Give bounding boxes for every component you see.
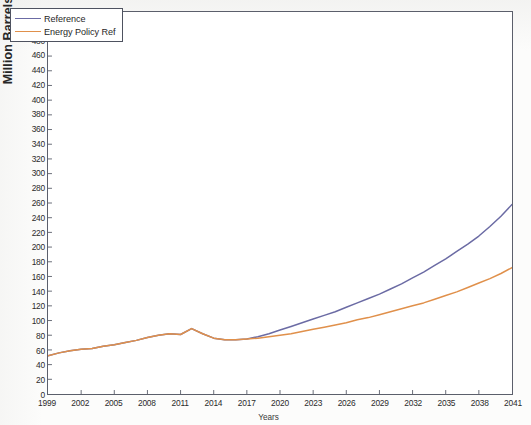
y-axis-tick-labels: 0204060801001201401601802002202402602803… [22, 0, 47, 425]
y-axis-tick-380: 380 [32, 109, 45, 119]
y-axis-tick-400: 400 [32, 95, 45, 105]
y-axis-tick-260: 260 [32, 198, 45, 208]
y-axis-tick-420: 420 [32, 80, 45, 90]
y-axis-tick-240: 240 [32, 213, 45, 223]
x-axis-tick-labels: 1999200220052008201120142017202020232026… [0, 398, 531, 412]
y-axis-tick-280: 280 [32, 183, 45, 193]
y-axis-tick-100: 100 [32, 316, 45, 326]
x-axis-tick-2002: 2002 [71, 398, 89, 408]
x-axis-tick-2017: 2017 [238, 398, 256, 408]
y-axis-tick-160: 160 [32, 272, 45, 282]
y-axis-tick-200: 200 [32, 242, 45, 252]
x-axis-tick-2038: 2038 [471, 398, 489, 408]
chart-page: Million Barrels of Oil Equivalents 02040… [0, 0, 531, 425]
series-line-energy-policy-ref [48, 268, 512, 356]
chart-legend: Reference Energy Policy Ref [10, 8, 123, 42]
y-axis-tick-440: 440 [32, 65, 45, 75]
x-axis-tick-2032: 2032 [404, 398, 422, 408]
legend-item-energy-policy-ref: Energy Policy Ref [15, 25, 115, 38]
x-axis-title-text: Years [258, 413, 279, 422]
y-axis-tick-340: 340 [32, 139, 45, 149]
x-axis-tick-2005: 2005 [105, 398, 123, 408]
y-axis-title-container: Million Barrels of Oil Equivalents [2, 0, 24, 425]
y-axis-tick-300: 300 [32, 168, 45, 178]
legend-swatch-energy-policy-ref [15, 31, 41, 32]
y-axis-tick-140: 140 [32, 287, 45, 297]
y-axis-tick-460: 460 [32, 50, 45, 60]
x-axis-tick-1999: 1999 [38, 398, 56, 408]
y-axis-tick-180: 180 [32, 257, 45, 267]
x-axis-tick-2035: 2035 [438, 398, 456, 408]
x-axis-tick-2014: 2014 [205, 398, 223, 408]
x-axis-tick-2011: 2011 [172, 398, 189, 408]
x-axis-tick-2023: 2023 [304, 398, 322, 408]
x-axis-tick-2020: 2020 [271, 398, 289, 408]
plot-area [47, 11, 513, 395]
y-axis-tick-360: 360 [32, 124, 45, 134]
y-axis-tick-60: 60 [36, 346, 45, 356]
y-axis-tick-40: 40 [36, 360, 45, 370]
y-axis-tick-20: 20 [36, 375, 45, 385]
x-axis-tick-2029: 2029 [371, 398, 389, 408]
legend-label-energy-policy-ref: Energy Policy Ref [44, 27, 115, 37]
y-axis-tick-80: 80 [36, 331, 45, 341]
series-line-reference [48, 204, 512, 355]
x-axis-tick-2026: 2026 [338, 398, 356, 408]
chart-canvas [48, 12, 512, 394]
x-axis-tick-2008: 2008 [138, 398, 156, 408]
x-axis-title: Years [0, 413, 531, 424]
y-axis-tick-320: 320 [32, 154, 45, 164]
legend-item-reference: Reference [15, 12, 115, 25]
legend-swatch-reference [15, 18, 41, 19]
x-axis-tick-2041: 2041 [504, 398, 522, 408]
legend-label-reference: Reference [44, 14, 86, 24]
y-axis-tick-220: 220 [32, 228, 45, 238]
y-axis-tick-120: 120 [32, 301, 45, 311]
